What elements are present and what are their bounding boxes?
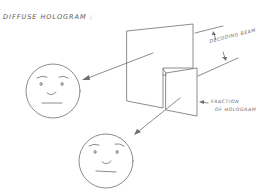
- fraction-plate: [166, 68, 197, 116]
- hologram-diagram: [0, 0, 271, 195]
- face-lower: [79, 134, 133, 188]
- fraction-pointer-arrow-icon: [199, 100, 208, 104]
- decoding-beam-lower-line: [198, 58, 238, 76]
- arrow-to-upper-face-icon: [82, 53, 153, 80]
- hologram-plate: [127, 24, 193, 108]
- fraction-label-line1: FRACTION: [211, 99, 239, 104]
- face-upper: [26, 64, 80, 118]
- decoding-beam-upper-line: [195, 26, 223, 33]
- fraction-label-line2: OF HOLOGRAM: [215, 107, 256, 112]
